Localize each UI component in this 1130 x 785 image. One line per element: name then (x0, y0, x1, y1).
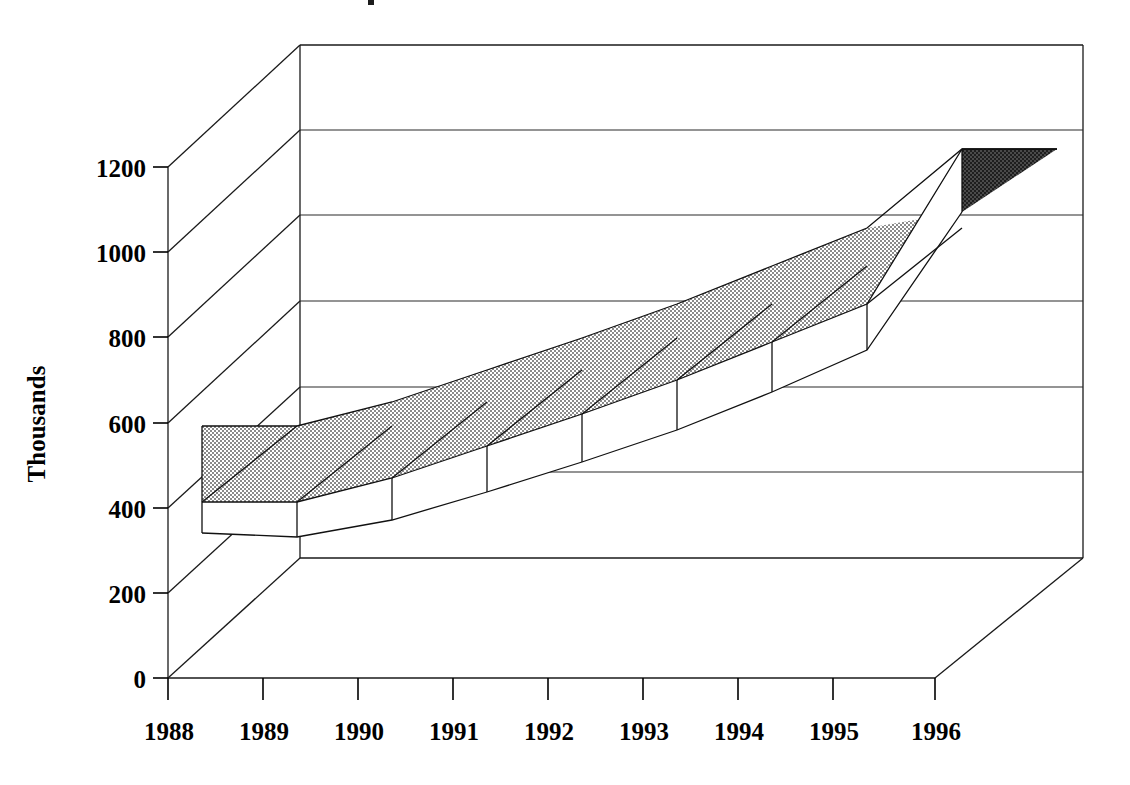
y-tick-label: 200 (109, 581, 147, 608)
x-tick-label: 1990 (334, 718, 384, 745)
y-tick-label: 1200 (96, 155, 146, 182)
x-tick-label: 1996 (911, 718, 961, 745)
x-axis-tick-labels: 1988 1989 1990 1991 1992 1993 1994 1995 … (144, 718, 961, 745)
y-axis-title: Thousands (23, 365, 50, 482)
x-tick-label: 1989 (239, 718, 289, 745)
x-tick-label: 1995 (809, 718, 859, 745)
x-axis-ticks (168, 678, 935, 700)
y-axis-tick-labels: 1200 1000 800 600 400 200 0 (96, 155, 146, 693)
y-tick-label: 600 (109, 411, 147, 438)
y-tick-label: 800 (109, 325, 147, 352)
plot-left-wall (168, 45, 300, 678)
x-tick-label: 1991 (429, 718, 479, 745)
y-axis-ticks (153, 167, 168, 678)
y-tick-label: 1000 (96, 240, 146, 267)
area-chart-3d: 1200 1000 800 600 400 200 0 Thousands (0, 0, 1130, 785)
chart-page: 1200 1000 800 600 400 200 0 Thousands (0, 0, 1130, 785)
y-tick-label: 0 (134, 666, 147, 693)
y-axis-title-group: Thousands (23, 365, 50, 482)
x-tick-label: 1993 (619, 718, 669, 745)
x-tick-label: 1994 (714, 718, 765, 745)
y-tick-label: 400 (109, 496, 147, 523)
x-tick-label: 1988 (144, 718, 194, 745)
plot-floor (168, 558, 1083, 678)
x-tick-label: 1992 (524, 718, 574, 745)
